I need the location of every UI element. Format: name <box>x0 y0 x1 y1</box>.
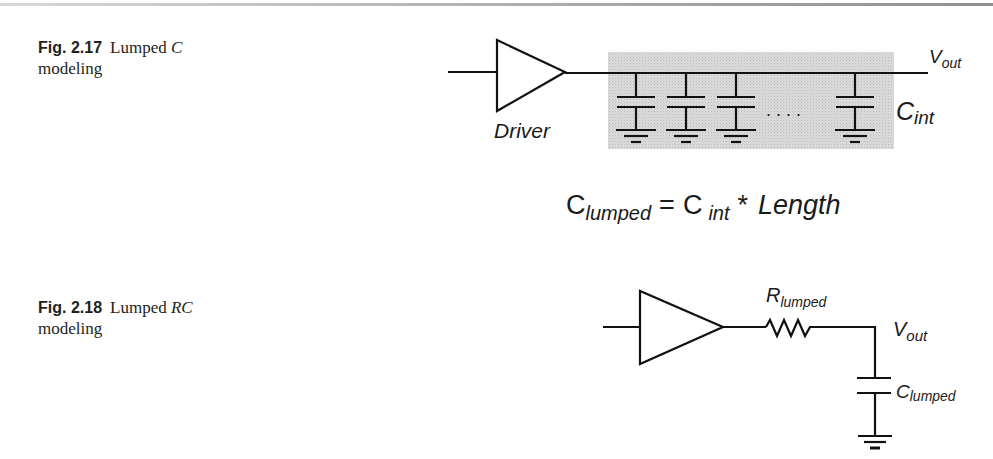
output-node-wire <box>815 327 875 378</box>
clumped-label: Clumped <box>896 381 957 404</box>
clumped-sub: lumped <box>910 388 957 404</box>
vout-label: Vout <box>893 318 928 344</box>
ground-icon <box>858 436 892 448</box>
rlumped-sub: lumped <box>780 294 827 310</box>
driver-buffer-icon <box>640 291 723 364</box>
clumped-main: C <box>896 381 910 402</box>
vout-sub: out <box>906 327 928 344</box>
resistor-icon <box>766 320 815 336</box>
rlumped-label: Rlumped <box>766 284 828 310</box>
rlumped-main: R <box>766 284 780 306</box>
lumped-rc-diagram: Rlumped Vout Clumped <box>0 0 993 459</box>
